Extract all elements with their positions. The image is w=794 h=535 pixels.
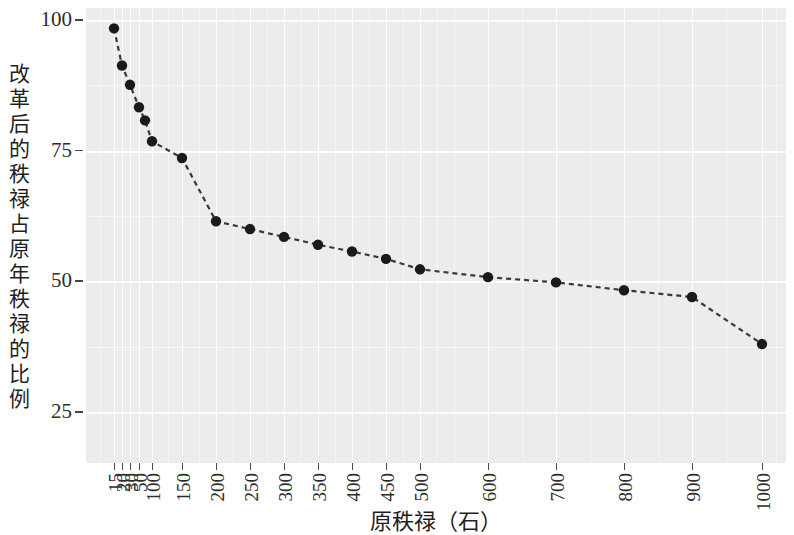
data-point — [619, 285, 629, 295]
data-point — [313, 240, 323, 250]
y-tick-mark — [75, 150, 83, 152]
x-tick-mark — [130, 463, 132, 470]
data-point — [279, 232, 289, 242]
x-tick-mark — [182, 463, 184, 470]
y-tick-mark — [75, 280, 83, 282]
y-tick-label: 25 — [51, 399, 72, 424]
x-tick-mark — [216, 463, 218, 470]
x-tick-mark — [250, 463, 252, 470]
data-point — [687, 292, 697, 302]
y-tick-label: 100 — [41, 7, 73, 32]
data-point — [757, 339, 767, 349]
data-point — [177, 153, 187, 163]
data-point — [347, 246, 357, 256]
data-point — [109, 23, 119, 33]
x-tick-mark — [692, 463, 694, 470]
x-axis-title: 原秩禄（石） — [86, 503, 786, 535]
plot-area — [86, 8, 786, 463]
x-tick-mark — [352, 463, 354, 470]
data-point — [211, 216, 221, 226]
data-point — [245, 224, 255, 234]
x-tick-mark — [624, 463, 626, 470]
x-tick-mark — [556, 463, 558, 470]
x-tick-mark — [762, 463, 764, 470]
data-point — [117, 60, 127, 70]
x-tick-mark — [284, 463, 286, 470]
y-tick-mark — [75, 411, 83, 413]
x-tick-mark — [488, 463, 490, 470]
data-point — [415, 264, 425, 274]
data-point — [125, 80, 135, 90]
data-series-line — [86, 8, 786, 463]
y-tick-label: 75 — [51, 138, 72, 163]
x-tick-mark — [139, 463, 141, 470]
x-tick-mark — [114, 463, 116, 470]
data-point — [140, 115, 150, 125]
data-point — [381, 254, 391, 264]
data-point — [483, 272, 493, 282]
chart-container: 改革后的秩禄占原年秩禄的比例 100755025 152030501001502… — [0, 0, 794, 535]
x-tick-mark — [318, 463, 320, 470]
x-tick-mark — [122, 463, 124, 470]
data-point — [134, 102, 144, 112]
x-tick-mark — [386, 463, 388, 470]
y-axis-title: 改革后的秩禄占原年秩禄的比例 — [4, 62, 34, 412]
data-point — [551, 277, 561, 287]
x-tick-mark — [420, 463, 422, 470]
data-point — [147, 136, 157, 146]
y-tick-label: 50 — [51, 268, 72, 293]
y-tick-mark — [75, 19, 83, 21]
series-line — [114, 28, 762, 344]
x-tick-mark — [152, 463, 154, 470]
